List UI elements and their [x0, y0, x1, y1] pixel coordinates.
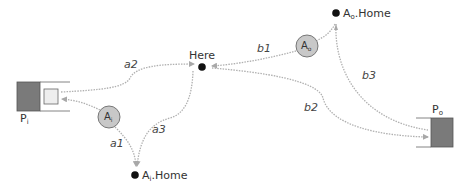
ao-agent-label: Ao: [301, 41, 312, 52]
edge-ai-to-pi: [62, 99, 100, 110]
edge-label-b1: b1: [257, 43, 271, 54]
edge-b1: [212, 51, 296, 66]
po-label: Po: [432, 104, 443, 117]
edge-b2: [212, 68, 428, 137]
ao-home-label: Ao.Home: [343, 8, 391, 21]
po-label-sub: o: [439, 109, 443, 117]
ai-agent-label-sub: i: [111, 116, 113, 123]
ao-home-label-suffix: .Home: [355, 7, 391, 20]
pi-label-main: P: [20, 112, 27, 125]
ao-home-dot: [332, 9, 340, 17]
po-label-main: P: [432, 103, 439, 116]
edge-label-b3: b3: [362, 70, 376, 81]
edge-a3: [137, 71, 193, 166]
edge-label-a1: a1: [110, 138, 124, 149]
ai-home-label: Ai.Home: [142, 170, 187, 183]
po-port: [416, 118, 453, 147]
pi-port-body: [17, 82, 40, 111]
ao-home-label-main: A: [343, 7, 351, 20]
edge-label-b2: b2: [304, 102, 318, 113]
pi-label: Pi: [20, 113, 29, 126]
pi-port-slot: [44, 89, 58, 104]
po-port-body: [431, 118, 453, 147]
diagram-svg: [0, 0, 469, 190]
ai-home-label-suffix: .Home: [151, 169, 187, 182]
ao-agent-label-sub: o: [308, 45, 312, 52]
ai-agent-label: Ai: [104, 112, 113, 123]
pi-port: [17, 82, 70, 111]
edge-aohome-to-ao: [316, 24, 335, 41]
ai-home-label-main: A: [142, 169, 150, 182]
here-dot: [198, 63, 206, 71]
edge-b3: [336, 24, 428, 130]
edge-label-a2: a2: [124, 59, 138, 70]
here-label: Here: [189, 50, 215, 61]
edge-label-a3: a3: [152, 124, 166, 135]
ai-home-dot: [131, 171, 139, 179]
pi-label-sub: i: [27, 118, 29, 126]
diagram-canvas: Here Ai.Home Ao.Home Ai Ao Pi Po a2 a1 a…: [0, 0, 469, 190]
ao-agent-label-main: A: [301, 40, 308, 51]
ai-agent-label-main: A: [104, 111, 111, 122]
